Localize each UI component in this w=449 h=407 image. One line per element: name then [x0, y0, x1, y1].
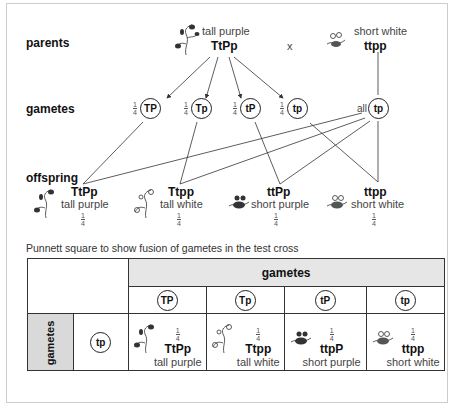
punnett-cell-4: 14 ttpp short white	[366, 314, 444, 371]
cell-fraction: 14	[411, 327, 415, 342]
cell-phenotype: short white	[386, 356, 439, 368]
cell-genotype: ttpP	[303, 342, 361, 356]
gamete-all-tp: all tp	[357, 98, 389, 119]
gamete-circle: tp	[368, 98, 389, 119]
parent-right-phenotype: short white	[354, 25, 407, 37]
offspring-2-fraction: 14	[177, 212, 181, 227]
cross-symbol: x	[287, 40, 293, 52]
cell-phenotype: short purple	[303, 356, 361, 368]
offspring-1-genotype: TtPp	[71, 185, 98, 199]
offspring-4-genotype: ttpp	[364, 185, 387, 199]
gamete-fraction: 14	[184, 101, 188, 116]
offspring-1-plant-icon	[32, 187, 60, 223]
label-gametes: gametes	[26, 102, 75, 116]
offspring-4-fraction: 14	[372, 212, 376, 227]
gamete-circle: TP	[140, 98, 161, 119]
gamete-fraction: 14	[280, 101, 284, 116]
parent-left-plant-icon	[172, 22, 202, 60]
punnett-cell-1: 14 TtPp tall purple	[128, 314, 206, 371]
gamete-Tp: 14 Tp	[184, 98, 212, 119]
cell-fraction: 14	[330, 327, 334, 342]
offspring-1-fraction: 14	[81, 212, 85, 227]
plant-icon	[210, 322, 238, 358]
label-offspring: offspring	[26, 171, 78, 185]
gamete-TP: 14 TP	[133, 98, 161, 119]
offspring-2-phenotype: tall white	[160, 198, 203, 210]
punnett-square: gametes TP Tp tP tp gametes tp 14 TtPp t…	[27, 258, 445, 371]
parent-right-plant-icon	[325, 30, 347, 54]
punnett-col-header: gametes	[128, 259, 444, 287]
cell-fraction: 14	[176, 327, 180, 342]
cell-phenotype: tall white	[237, 356, 280, 368]
cell-genotype: ttpp	[386, 342, 439, 356]
punnett-cell-2: 14 Ttpp tall white	[206, 314, 284, 371]
punnett-col-gamete: tp	[366, 287, 444, 314]
offspring-4-plant-icon	[325, 192, 349, 216]
offspring-3-genotype: ttPp	[267, 185, 290, 199]
punnett-row-header: gametes	[28, 314, 74, 371]
gamete-circle: Tp	[191, 98, 212, 119]
gamete-tP: 14 tP	[233, 98, 261, 119]
gamete-all-prefix: all	[357, 103, 367, 114]
cell-genotype: Ttpp	[237, 342, 280, 356]
cell-genotype: TtPp	[154, 342, 202, 356]
gamete-fraction: 14	[133, 101, 137, 116]
offspring-2-plant-icon	[132, 187, 160, 223]
offspring-3-phenotype: short purple	[251, 198, 309, 210]
punnett-caption: Punnett square to show fusion of gametes…	[26, 242, 299, 254]
gamete-circle: tP	[240, 98, 261, 119]
parent-left-phenotype: tall purple	[202, 25, 250, 37]
punnett-corner	[28, 259, 129, 314]
gamete-fraction: 14	[233, 101, 237, 116]
punnett-col-gamete: TP	[128, 287, 206, 314]
punnett-row-gamete: tp	[73, 314, 128, 371]
cell-fraction: 14	[256, 327, 260, 342]
offspring-3-fraction: 14	[274, 212, 278, 227]
gamete-tp: 14 tp	[280, 98, 308, 119]
punnett-col-gamete: Tp	[206, 287, 284, 314]
offspring-2-genotype: Ttpp	[168, 185, 194, 199]
offspring-1-phenotype: tall purple	[61, 198, 109, 210]
cell-phenotype: tall purple	[154, 356, 202, 368]
punnett-cell-3: 14 ttpP short purple	[284, 314, 366, 371]
parent-right-genotype: ttpp	[364, 39, 387, 53]
offspring-3-plant-icon	[227, 192, 251, 216]
gamete-circle: tp	[287, 98, 308, 119]
label-parents: parents	[26, 36, 69, 50]
parent-left-genotype: TtPp	[211, 39, 238, 53]
punnett-col-gamete: tP	[284, 287, 366, 314]
offspring-4-phenotype: short white	[351, 198, 404, 210]
